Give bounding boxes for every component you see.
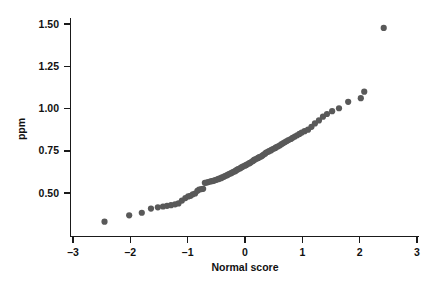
y-axis-title: ppm bbox=[15, 118, 27, 140]
y-tick-group: 0.500.751.001.251.50 bbox=[39, 18, 71, 199]
data-point bbox=[101, 219, 107, 225]
y-tick-label: 0.75 bbox=[39, 144, 60, 156]
x-tick-label: 0 bbox=[242, 246, 248, 258]
data-point bbox=[345, 99, 351, 105]
y-tick-label: 1.25 bbox=[39, 60, 60, 72]
data-point bbox=[358, 95, 364, 101]
x-tick-label: –2 bbox=[124, 246, 136, 258]
data-point bbox=[361, 89, 367, 95]
x-tick-group: –3–2–10123 bbox=[67, 237, 420, 259]
normal-probability-plot: 0.500.751.001.251.50 –3–2–10123 ppm Norm… bbox=[0, 0, 446, 284]
y-tick-label: 0.50 bbox=[39, 187, 60, 199]
data-point bbox=[126, 212, 132, 218]
data-point bbox=[381, 25, 387, 31]
x-tick-label: –3 bbox=[67, 246, 79, 258]
data-point bbox=[336, 105, 342, 111]
data-point bbox=[329, 108, 335, 114]
data-point bbox=[148, 205, 154, 211]
x-tick-label: 1 bbox=[299, 246, 305, 258]
plot-axes bbox=[71, 18, 420, 237]
data-point-group bbox=[101, 25, 386, 225]
x-tick-label: 2 bbox=[357, 246, 363, 258]
data-point bbox=[155, 204, 161, 210]
x-axis-title: Normal score bbox=[211, 261, 278, 273]
y-tick-label: 1.50 bbox=[39, 18, 60, 30]
data-point bbox=[200, 186, 206, 192]
y-tick-label: 1.00 bbox=[39, 102, 60, 114]
x-tick-label: –1 bbox=[182, 246, 194, 258]
x-tick-label: 3 bbox=[414, 246, 420, 258]
data-point bbox=[139, 210, 145, 216]
